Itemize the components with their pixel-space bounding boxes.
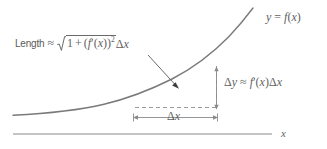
- x-axis-label: x: [281, 128, 286, 139]
- radicand-plus: +: [73, 36, 84, 50]
- delta-x-x: x: [175, 109, 180, 123]
- delta-y-delta2: Δ: [269, 75, 277, 89]
- delta-y-approx: ≈: [237, 75, 250, 89]
- length-formula: Length ≈ 1+(f′(x))2 Δx: [15, 34, 129, 50]
- delta-x-label: Δx: [167, 110, 180, 122]
- approx-symbol: ≈: [44, 37, 57, 50]
- function-curve: [13, 8, 253, 115]
- delta-y-delta: Δ: [224, 75, 232, 89]
- x-symbol-length: x: [124, 37, 129, 51]
- delta-x-term: Δx: [116, 38, 129, 50]
- length-word: Length: [15, 39, 44, 50]
- radical-sign-icon: [57, 36, 66, 51]
- radicand-exponent: 2: [111, 35, 115, 44]
- delta-y-measure: [214, 67, 218, 110]
- square-root-group: 1+(f′(x))2: [57, 34, 116, 50]
- curve-label-close-paren: ): [297, 10, 301, 24]
- delta-x-delta: Δ: [167, 109, 175, 123]
- radicand: 1+(f′(x))2: [66, 35, 116, 49]
- delta-y-x2: x: [277, 75, 282, 89]
- curve-label: y=f(x): [266, 11, 301, 23]
- arc-length-diagram: y=f(x) Length ≈ 1+(f′(x))2 Δx Δy≈f′(x)Δx…: [0, 0, 327, 149]
- delta-symbol-length: Δ: [116, 37, 124, 51]
- delta-y-label: Δy≈f′(x)Δx: [224, 76, 282, 88]
- curve-label-equals: =: [271, 10, 284, 24]
